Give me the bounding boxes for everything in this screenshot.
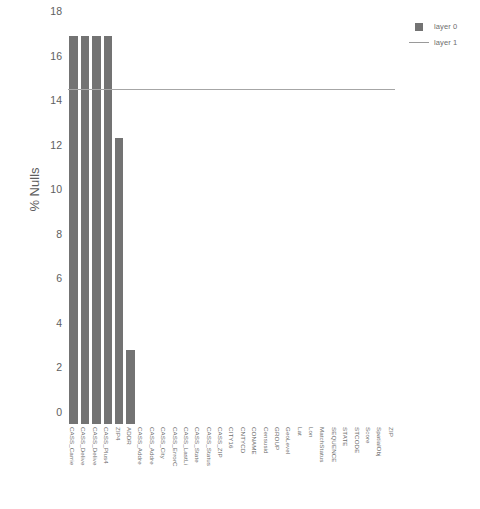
x-axis-tick-label: STATE (342, 427, 349, 447)
bar[interactable] (126, 350, 134, 424)
x-axis-tick-label: CASS_Addre (137, 427, 144, 465)
line-swatch-icon (408, 42, 430, 43)
y-axis-tick-label: 12 (50, 139, 62, 151)
legend-item-layer-0[interactable]: layer 0 (408, 20, 478, 33)
square-swatch-icon (408, 23, 430, 31)
x-axis-tick-label: CNTYCD (240, 427, 247, 453)
y-axis-tick-label: 10 (50, 183, 62, 195)
x-axis-tick-label: CASS_LastLi (183, 427, 190, 465)
legend-label-layer-0: layer 0 (430, 22, 457, 31)
bar[interactable] (115, 138, 123, 424)
x-axis-tick-label: GeoLevel (285, 427, 292, 454)
x-axis-tick-labels: CASS_CarrieCASS_DeliveCASS_DeliveCASS_Pl… (68, 424, 398, 504)
x-axis-tick-label: ZIP (388, 427, 395, 437)
x-axis-tick-label: CASS_State (194, 427, 201, 463)
y-axis-tick-label: 2 (56, 361, 62, 373)
bar[interactable] (92, 36, 100, 424)
x-axis-tick-label: CASS_Status (206, 427, 213, 466)
x-axis-tick-label: CITY16 (228, 427, 235, 449)
x-axis-tick-label: CASS_Addre (149, 427, 156, 465)
x-axis-tick-label: CASS_Plus4 (103, 427, 110, 464)
x-axis-tick-label: ZIP4 (115, 427, 122, 440)
reference-line (68, 89, 395, 90)
x-axis-tick-label: SpatialObj (376, 427, 383, 457)
y-axis-tick-label: 14 (50, 94, 62, 106)
x-axis-tick-label: Lat (297, 427, 304, 436)
plot-area: 024681012141618 (68, 23, 398, 424)
bar-chart: % Nulls 024681012141618 CASS_CarrieCASS_… (0, 0, 480, 509)
bar[interactable] (69, 36, 77, 424)
x-axis-tick-label: CASS_City (160, 427, 167, 459)
x-axis-tick-label: Lon (308, 427, 315, 438)
legend-label-layer-1: layer 1 (430, 38, 457, 47)
y-axis-tick-label: 18 (50, 5, 62, 17)
x-axis-tick-label: CASS_ZIP (217, 427, 224, 458)
x-axis-tick-label: CASS_ErrorC (172, 427, 179, 467)
y-axis-tick-label: 0 (56, 406, 62, 418)
x-axis-tick-label: SEQUENCE (331, 427, 338, 463)
x-axis-tick-label: CASS_Delive (92, 427, 99, 466)
legend-item-layer-1[interactable]: layer 1 (408, 36, 478, 49)
chart-legend: layer 0 layer 1 (408, 20, 478, 52)
x-axis-tick-label: Censusid (263, 427, 270, 454)
x-axis-tick-label: CONAME (251, 427, 258, 455)
y-axis-title: % Nulls (27, 150, 42, 230)
y-axis-tick-label: 6 (56, 272, 62, 284)
x-axis-tick-label: GROUP (274, 427, 281, 450)
x-axis-tick-label: CASS_Delive (80, 427, 87, 466)
x-axis-tick-label: MatchStatus (319, 427, 326, 463)
y-axis-tick-label: 8 (56, 228, 62, 240)
x-axis-tick-label: STCODE (354, 427, 361, 453)
x-axis-tick-label: ADDR (126, 427, 133, 445)
x-axis-tick-label: CASS_Carrie (69, 427, 76, 465)
x-axis-tick-label: Score (365, 427, 372, 444)
y-axis-tick-label: 4 (56, 317, 62, 329)
bar[interactable] (104, 36, 112, 424)
y-axis-tick-label: 16 (50, 50, 62, 62)
bar[interactable] (81, 36, 89, 424)
